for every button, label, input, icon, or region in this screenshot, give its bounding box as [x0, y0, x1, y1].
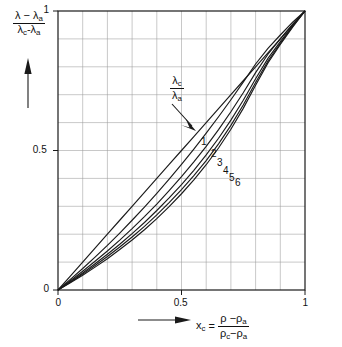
lambda-ratio-annotation: λc λa [160, 74, 194, 103]
y-axis-direction-arrow [24, 58, 31, 108]
y-axis-label-denominator: λc-λa [13, 23, 45, 37]
chart-canvas [0, 0, 342, 347]
curve-label-3: 3 [217, 157, 223, 168]
y-axis-label-numerator: λ − λa [13, 10, 45, 23]
y-tick-label: 0 [44, 283, 50, 294]
lambda-ratio-fraction: λc λa [170, 74, 184, 103]
x-tick-label: 0 [55, 297, 61, 308]
curve-label-4: 4 [223, 165, 229, 176]
curve-label-6: 6 [235, 177, 241, 188]
x-axis-label-fraction: ρ −ρa ρc−ρa [218, 312, 249, 341]
x-axis-label: xc = ρ −ρa ρc−ρa [196, 312, 249, 341]
curve-label-2: 2 [211, 148, 217, 159]
lambda-ratio-numerator: λc [170, 74, 184, 88]
annotation-pointer-arrow [172, 104, 196, 131]
y-axis-label-fraction: λ − λa λc-λa [13, 10, 45, 38]
x-tick-label: 0.5 [174, 297, 188, 308]
y-tick-label: 1 [44, 4, 50, 15]
x-axis-label-numerator: ρ −ρa [218, 312, 249, 326]
lambda-ratio-denominator: λa [170, 88, 184, 103]
x-tick-label: 1 [302, 297, 308, 308]
x-axis-label-variable: xc [196, 319, 205, 333]
figure-container: λ − λa λc-λa λc λa xc = ρ −ρa ρc−ρa 00.5… [0, 0, 342, 347]
x-axis-label-equals: = [208, 320, 214, 332]
curve-label-5: 5 [229, 172, 235, 183]
y-tick-label: 0.5 [33, 144, 47, 155]
x-axis-label-denominator: ρc−ρa [218, 326, 249, 341]
x-axis-direction-arrow [138, 317, 191, 324]
curve-label-1: 1 [201, 136, 207, 147]
